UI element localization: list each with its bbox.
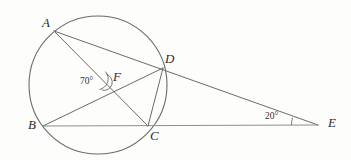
point-label-c: C <box>150 129 159 142</box>
point-label-f: F <box>113 70 121 83</box>
point-label-b: B <box>28 118 36 131</box>
angle-label-e: 20° <box>265 112 278 122</box>
geometry-figure: A B C D E F 70° 20° <box>0 0 351 160</box>
point-label-e: E <box>328 116 336 129</box>
circle-outline <box>29 16 167 154</box>
angle-arc-e <box>291 118 292 126</box>
segment-A-to-E <box>54 31 318 125</box>
segment-B-to-D <box>43 68 163 126</box>
geometry-canvas <box>0 0 351 160</box>
point-label-a: A <box>42 16 50 29</box>
segment-B-to-E <box>43 125 318 126</box>
point-label-d: D <box>165 52 174 65</box>
segment-D-to-C <box>148 68 163 126</box>
segment-A-to-C <box>54 31 148 126</box>
angle-label-f: 70° <box>80 77 93 87</box>
